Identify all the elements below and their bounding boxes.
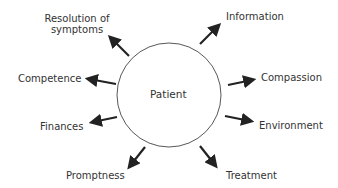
arrow-resolution [111, 38, 129, 56]
node-finances: Finances [40, 121, 83, 132]
arrow-competence [89, 79, 116, 84]
node-compassion: Compassion [261, 72, 322, 83]
arrow-compassion [228, 80, 252, 85]
arrow-treatment [200, 146, 215, 165]
node-resolution-line1: Resolution of [42, 13, 112, 24]
arrow-information [200, 26, 218, 44]
center-label: Patient [150, 88, 187, 100]
arrow-environment [225, 116, 250, 121]
patient-diagram: Patient Resolution of symptoms Informati… [0, 0, 338, 188]
node-resolution: Resolution of symptoms [42, 13, 112, 35]
node-environment: Environment [259, 120, 323, 131]
arrow-promptness [130, 147, 145, 166]
node-promptness: Promptness [66, 170, 125, 181]
node-treatment: Treatment [226, 170, 277, 181]
node-information: Information [226, 11, 284, 22]
node-resolution-line2: symptoms [42, 24, 112, 35]
arrow-finances [93, 117, 117, 122]
node-competence: Competence [18, 73, 81, 84]
